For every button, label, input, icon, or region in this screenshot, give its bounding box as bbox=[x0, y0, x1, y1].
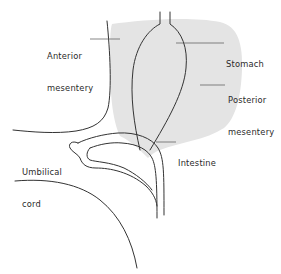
intestine-label-text: Intestine bbox=[178, 158, 216, 169]
anterior-mesentery-label-line1: Anterior bbox=[47, 51, 93, 62]
posterior-mesentery-label-line1: Posterior bbox=[228, 95, 274, 106]
stomach-label-text: Stomach bbox=[226, 59, 264, 70]
posterior-mesentery-label: Posterior mesentery bbox=[228, 74, 274, 148]
intestine-label: Intestine bbox=[178, 137, 216, 179]
umbilical-cord-label-line1: Umbilical bbox=[22, 167, 62, 178]
posterior-mesentery-label-line2: mesentery bbox=[228, 127, 274, 138]
umbilical-cord-inner bbox=[87, 148, 152, 190]
posterior-mesentery-shade bbox=[110, 19, 242, 158]
anterior-mesentery-label-line2: mesentery bbox=[47, 83, 93, 94]
umbilical-cord-label: Umbilical cord bbox=[22, 146, 62, 220]
anterior-mesentery-label: Anterior mesentery bbox=[47, 30, 93, 104]
umbilical-cord-label-line2: cord bbox=[22, 199, 62, 210]
